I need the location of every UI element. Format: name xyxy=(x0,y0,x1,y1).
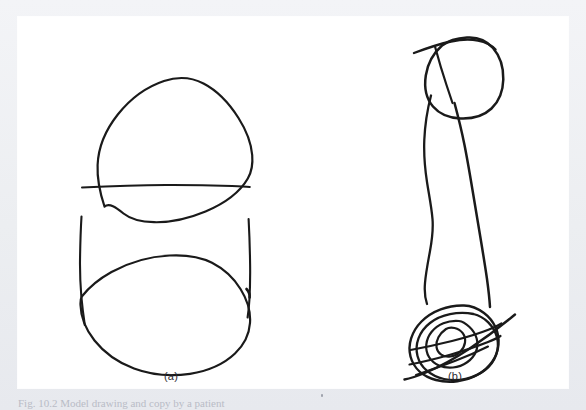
figure-caption-strip: Fig. 10.2 Model drawing and copy by a pa… xyxy=(18,400,568,410)
panel-a-bottom-circle xyxy=(80,255,250,375)
panel-b-right-descending-line xyxy=(455,103,491,307)
scanned-page: (a) (b) Fig. 10.2 Model drawing and copy… xyxy=(0,0,586,410)
scan-speck xyxy=(321,394,323,397)
panel-a-drawing xyxy=(80,78,252,375)
panel-b-drawing xyxy=(405,37,516,381)
hand-drawn-figure-canvas xyxy=(18,17,568,388)
figure-plate: (a) (b) xyxy=(18,17,568,388)
panel-b-label: (b) xyxy=(448,370,462,382)
panel-a-horizontal-divider xyxy=(82,185,250,188)
panel-a-top-circle xyxy=(98,78,253,222)
panel-a-label: (a) xyxy=(164,370,178,382)
figure-caption: Fig. 10.2 Model drawing and copy by a pa… xyxy=(18,400,225,409)
panel-b-left-descending-line xyxy=(424,96,433,305)
panel-b-top-circle-inner-stroke xyxy=(435,47,453,104)
